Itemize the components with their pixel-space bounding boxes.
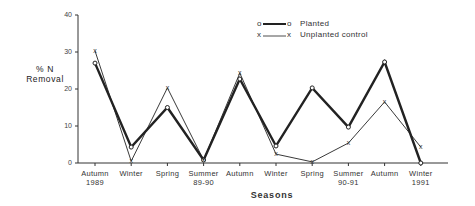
- x-tick-label: Summer: [189, 169, 219, 178]
- unplanted-marker: x: [93, 47, 97, 54]
- legend-marker-o: o: [257, 19, 262, 28]
- legend-marker-o: o: [287, 19, 292, 28]
- y-tick-label: 10: [64, 122, 72, 129]
- unplanted-marker: x: [419, 143, 423, 150]
- planted-line: [95, 62, 421, 163]
- x-tick-label: Autumn: [371, 169, 399, 178]
- y-axis-label: Removal: [26, 74, 64, 84]
- x-tick-label: Autumn: [81, 169, 109, 178]
- planted-marker: [93, 61, 97, 65]
- planted-marker: [165, 106, 169, 110]
- planted-marker: [419, 161, 423, 165]
- planted-marker: [274, 144, 278, 148]
- unplanted-marker: x: [166, 84, 170, 91]
- x-tick-label: Winter: [119, 169, 143, 178]
- legend-marker-x: x: [257, 30, 261, 39]
- y-tick-label: 30: [64, 48, 72, 55]
- planted-marker: [383, 60, 387, 64]
- x-tick-label: Autumn: [226, 169, 254, 178]
- x-tick-label: Winter: [409, 169, 433, 178]
- legend-planted: Planted: [300, 19, 329, 28]
- y-tick-label: 0: [68, 159, 72, 166]
- legend-marker-x: x: [287, 30, 291, 39]
- x-axis-label: Seasons: [251, 190, 294, 200]
- x-tick-label: Winter: [264, 169, 288, 178]
- unplanted-marker: x: [129, 157, 133, 164]
- unplanted-marker: x: [274, 150, 278, 157]
- unplanted-line: [95, 51, 421, 162]
- x-tick-label: Spring: [300, 169, 323, 178]
- y-tick-label: 20: [64, 85, 72, 92]
- x-tick-label: Summer: [333, 169, 363, 178]
- x-tick-label: 90-91: [338, 178, 359, 187]
- x-tick-label: 1989: [86, 178, 104, 187]
- line-chart: 010203040Autumn1989WinterSpringSummer89-…: [0, 0, 475, 206]
- y-tick-label: 40: [64, 11, 72, 18]
- unplanted-marker: x: [310, 158, 314, 165]
- unplanted-marker: x: [383, 98, 387, 105]
- legend-unplanted: Unplanted control: [300, 30, 368, 39]
- planted-marker: [310, 86, 314, 90]
- planted-marker: [346, 125, 350, 129]
- planted-marker: [129, 145, 133, 149]
- x-tick-label: 1991: [412, 178, 430, 187]
- x-tick-label: Spring: [156, 169, 179, 178]
- y-axis-label: % N: [36, 64, 54, 74]
- unplanted-marker: x: [238, 69, 242, 76]
- unplanted-marker: x: [202, 156, 206, 163]
- unplanted-marker: x: [347, 139, 351, 146]
- x-tick-label: 89-90: [193, 178, 214, 187]
